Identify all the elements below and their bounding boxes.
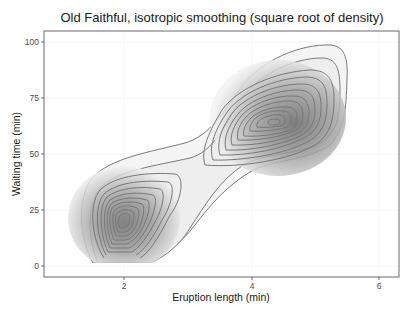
y-tick-0: 0 xyxy=(34,261,39,271)
x-tick-2: 2 xyxy=(122,281,127,291)
y-tick-100: 100 xyxy=(25,37,39,47)
chart-canvas: 0 25 50 75 100 2 4 6 Eruption length (mi… xyxy=(0,0,414,318)
x-tick-6: 6 xyxy=(377,281,382,291)
y-axis-title: Waiting time (min) xyxy=(10,112,22,196)
y-tick-75: 75 xyxy=(30,93,40,103)
x-axis-labels: 2 4 6 xyxy=(122,281,382,291)
x-axis-title: Eruption length (min) xyxy=(172,291,269,303)
y-tick-25: 25 xyxy=(30,205,40,215)
y-tick-50: 50 xyxy=(30,149,40,159)
x-tick-4: 4 xyxy=(250,281,255,291)
y-axis-labels: 0 25 50 75 100 xyxy=(25,37,39,271)
